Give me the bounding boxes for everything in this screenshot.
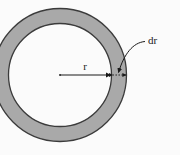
annulus-svg: r dr (0, 0, 180, 155)
radius-label: r (83, 60, 87, 72)
center-dot (59, 74, 61, 76)
annulus-diagram-canvas: r dr (0, 0, 180, 155)
thickness-label: dr (148, 34, 158, 46)
